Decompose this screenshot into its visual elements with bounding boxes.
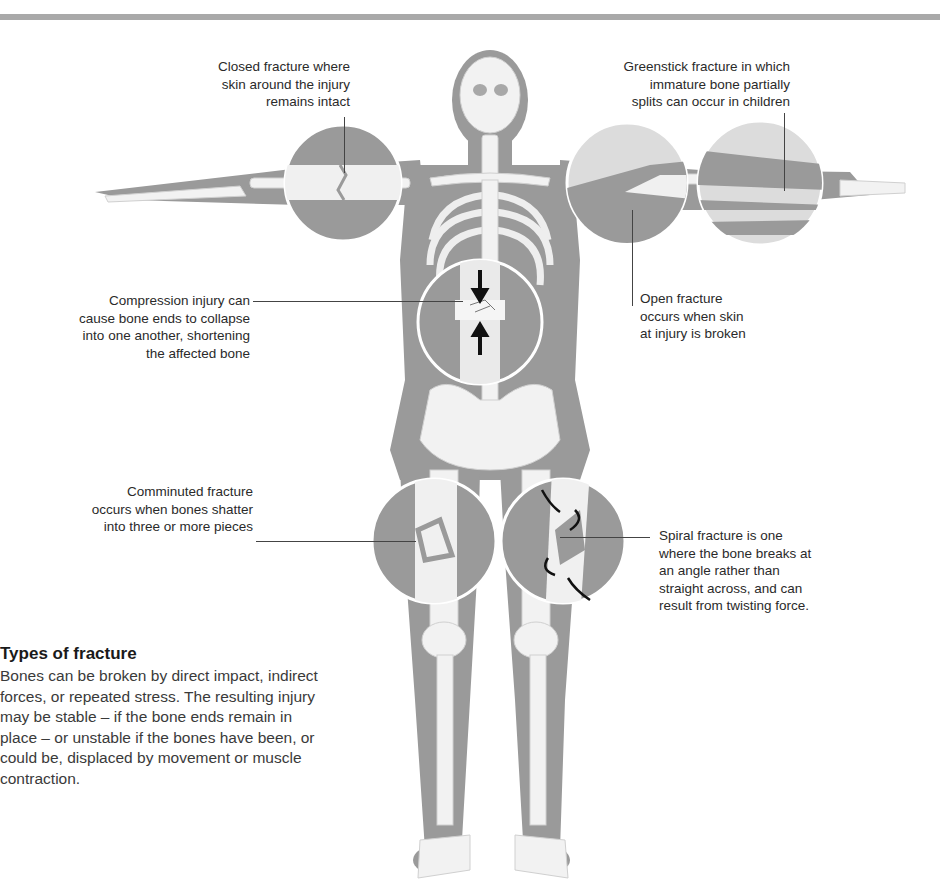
callout-open-fracture: Open fracture occurs when skin at injury… <box>640 290 800 343</box>
callout-line: straight across, and can <box>659 580 889 598</box>
inset-greenstick-fracture <box>695 121 830 245</box>
callout-line: Closed fracture where <box>130 58 350 76</box>
callout-line: into one another, shortening <box>40 327 250 345</box>
callout-line: into three or more pieces <box>40 518 253 536</box>
callout-line: skin around the injury <box>130 76 350 94</box>
callout-line: Comminuted fracture <box>40 483 253 501</box>
callout-line: result from twisting force. <box>659 597 889 615</box>
section-title: Types of fracture <box>0 644 137 664</box>
callout-line: Greenstick fracture in which <box>560 58 790 76</box>
callout-line: splits can occur in children <box>560 93 790 111</box>
callout-line: remains intact <box>130 93 350 111</box>
callout-comminuted-fracture: Comminuted fracture occurs when bones sh… <box>40 483 253 536</box>
callout-line: Compression injury can <box>40 292 250 310</box>
callout-compression-injury: Compression injury can cause bone ends t… <box>40 292 250 362</box>
leader-open <box>632 210 633 306</box>
leader-spiral <box>560 537 650 538</box>
callout-line: an angle rather than <box>659 562 889 580</box>
callout-line: where the bone breaks at <box>659 545 889 563</box>
leader-compression <box>253 301 463 302</box>
callout-line: immature bone partially <box>560 76 790 94</box>
callout-closed-fracture: Closed fracture where skin around the in… <box>130 58 350 111</box>
leader-closed <box>344 117 345 173</box>
inset-open-fracture <box>560 123 700 250</box>
callout-line: cause bone ends to collapse <box>40 310 250 328</box>
callout-line: Open fracture <box>640 290 800 308</box>
callout-spiral-fracture: Spiral fracture is one where the bone br… <box>659 527 889 615</box>
leader-greenstick <box>784 113 785 191</box>
callout-line: at injury is broken <box>640 325 800 343</box>
section-body: Bones can be broken by direct impact, in… <box>0 666 330 789</box>
callout-line: Spiral fracture is one <box>659 527 889 545</box>
callout-greenstick-fracture: Greenstick fracture in which immature bo… <box>560 58 790 111</box>
inset-closed-fracture <box>280 125 410 241</box>
callout-line: the affected bone <box>40 345 250 363</box>
leader-comminuted <box>256 541 416 542</box>
callout-line: occurs when skin <box>640 308 800 326</box>
callout-line: occurs when bones shatter <box>40 501 253 519</box>
